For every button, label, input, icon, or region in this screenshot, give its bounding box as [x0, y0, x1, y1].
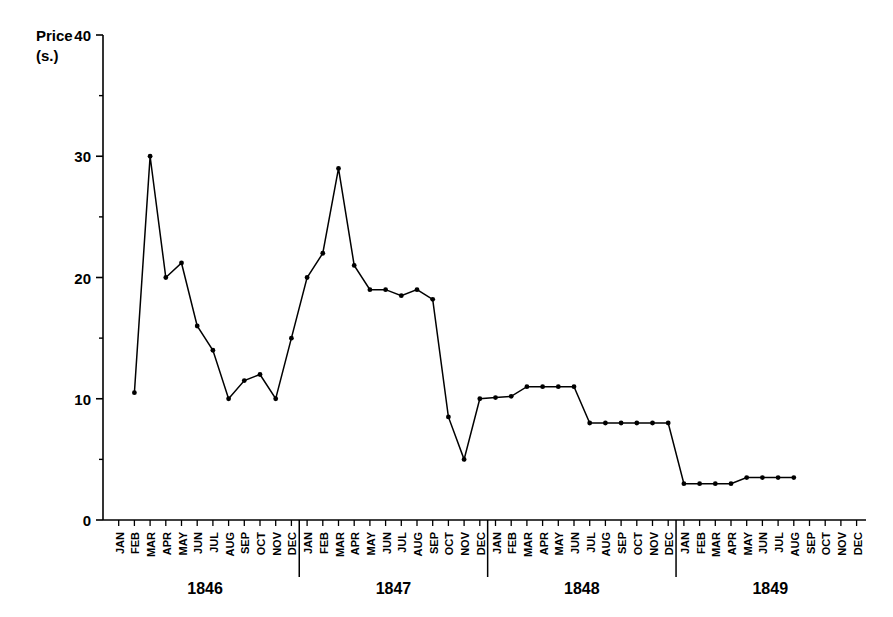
- data-point: [634, 421, 639, 426]
- x-month-label: SEP: [616, 532, 628, 554]
- x-year-label: 1849: [752, 580, 788, 597]
- data-point: [148, 154, 153, 159]
- data-point: [650, 421, 655, 426]
- x-month-label: AUG: [789, 532, 801, 556]
- x-month-label: JUL: [208, 532, 220, 553]
- x-year-label: 1847: [376, 580, 412, 597]
- x-month-label: MAY: [365, 531, 377, 555]
- x-month-label: NOV: [459, 531, 471, 556]
- y-tick-group: 010203040: [74, 27, 103, 529]
- x-year-label: 1846: [187, 580, 223, 597]
- data-point: [415, 287, 420, 292]
- data-point: [760, 475, 765, 480]
- data-point: [163, 275, 168, 280]
- data-point: [713, 481, 718, 486]
- x-month-label: NOV: [836, 531, 848, 556]
- data-point: [477, 396, 482, 401]
- x-month-label: DEC: [475, 532, 487, 555]
- data-point: [603, 421, 608, 426]
- year-label-group: 1846184718481849: [187, 580, 788, 597]
- data-point: [273, 396, 278, 401]
- data-point: [430, 297, 435, 302]
- x-month-label: JUL: [396, 532, 408, 553]
- x-month-label: FEB: [506, 532, 518, 554]
- x-month-label: JAN: [114, 532, 126, 554]
- x-month-label: DEC: [663, 532, 675, 555]
- data-point: [352, 263, 357, 268]
- x-month-label: APR: [349, 532, 361, 555]
- data-point: [211, 348, 216, 353]
- data-point: [682, 481, 687, 486]
- x-month-label: FEB: [129, 532, 141, 554]
- chart-plot-area: 010203040 JANFEBMARAPRMAYJUNJULAUGSEPOCT…: [0, 0, 893, 617]
- data-point: [446, 415, 451, 420]
- x-month-label: OCT: [443, 532, 455, 556]
- x-month-label: MAR: [522, 532, 534, 557]
- data-point: [289, 336, 294, 341]
- x-month-label: FEB: [318, 532, 330, 554]
- data-line-group: [134, 156, 793, 483]
- data-point: [493, 395, 498, 400]
- data-point: [383, 287, 388, 292]
- y-tick-label: 10: [74, 391, 91, 408]
- x-month-label: MAY: [177, 531, 189, 555]
- x-month-label: SEP: [428, 532, 440, 554]
- data-point: [697, 481, 702, 486]
- axes-group: [103, 35, 866, 520]
- data-point: [132, 390, 137, 395]
- y-tick-label: 40: [74, 27, 91, 44]
- x-month-label: SEP: [239, 532, 251, 554]
- data-point: [556, 384, 561, 389]
- x-month-label: MAY: [742, 531, 754, 555]
- x-month-label: JUN: [569, 532, 581, 554]
- data-point: [525, 384, 530, 389]
- x-month-label: OCT: [255, 532, 267, 556]
- data-point: [399, 293, 404, 298]
- y-tick-label: 20: [74, 270, 91, 287]
- chart-figure: Price (s.) 010203040 JANFEBMARAPRMAYJUNJ…: [0, 0, 893, 617]
- x-month-label: JUL: [773, 532, 785, 553]
- data-point: [572, 384, 577, 389]
- data-point: [462, 457, 467, 462]
- x-month-label: AUG: [600, 532, 612, 556]
- data-point: [791, 475, 796, 480]
- data-point: [320, 251, 325, 256]
- data-point: [195, 324, 200, 329]
- x-month-label: DEC: [286, 532, 298, 555]
- data-point: [509, 394, 514, 399]
- x-month-label: JUN: [381, 532, 393, 554]
- data-point: [179, 261, 184, 266]
- x-month-label: AUG: [412, 532, 424, 556]
- price-line: [134, 156, 793, 483]
- data-point: [619, 421, 624, 426]
- data-point: [368, 287, 373, 292]
- x-month-label: MAY: [553, 531, 565, 555]
- data-point: [744, 475, 749, 480]
- x-month-label: APR: [161, 532, 173, 555]
- data-point: [776, 475, 781, 480]
- x-month-label: SEP: [805, 532, 817, 554]
- y-tick-label: 0: [83, 512, 91, 529]
- data-point: [226, 396, 231, 401]
- x-month-label: APR: [538, 532, 550, 555]
- data-point-group: [132, 154, 796, 486]
- x-month-label: JUN: [192, 532, 204, 554]
- x-month-label: JUN: [757, 532, 769, 554]
- x-month-label: FEB: [695, 532, 707, 554]
- x-month-label: NOV: [271, 531, 283, 556]
- x-month-label: NOV: [648, 531, 660, 556]
- x-month-label: JAN: [302, 532, 314, 554]
- data-point: [336, 166, 341, 171]
- data-point: [587, 421, 592, 426]
- x-month-label: MAR: [145, 532, 157, 557]
- x-month-label: APR: [726, 532, 738, 555]
- data-point: [729, 481, 734, 486]
- x-month-label: JAN: [491, 532, 503, 554]
- data-point: [305, 275, 310, 280]
- x-month-label: MAR: [334, 532, 346, 557]
- x-month-label: OCT: [632, 532, 644, 556]
- y-tick-label: 30: [74, 148, 91, 165]
- data-point: [666, 421, 671, 426]
- x-month-label: OCT: [820, 532, 832, 556]
- x-month-label: AUG: [224, 532, 236, 556]
